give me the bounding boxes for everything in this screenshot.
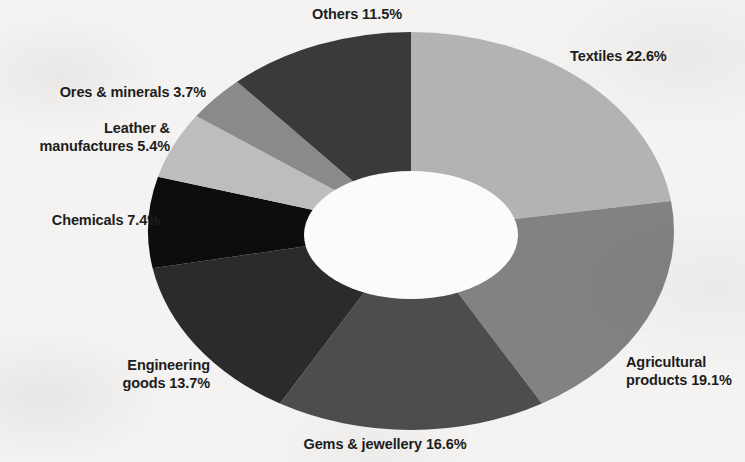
slice-label-leather-manufactures-line2: manufactures 5.4% [10,138,170,156]
slice-label-leather-manufactures: Leather & manufactures 5.4% [10,120,170,155]
slice-label-chemicals-line1: Chemicals 7.4% [10,212,160,230]
slice-label-ores-minerals-line1: Ores & minerals 3.7% [20,84,206,102]
slice-label-textiles: Textiles 22.6% [570,48,740,66]
slice-label-agricultural-products-line1: Agricultural [626,354,745,372]
slice-label-engineering-goods-line2: goods 13.7% [50,375,210,393]
slice-label-agricultural-products: Agricultural products 19.1% [626,354,745,389]
slice-label-engineering-goods: Engineering goods 13.7% [50,357,210,392]
slice-label-gems-jewellery-line1: Gems & jewellery 16.6% [260,436,510,454]
slice-label-others: Others 11.5% [262,6,452,24]
slice-label-leather-manufactures-line1: Leather & [10,120,170,138]
slice-label-gems-jewellery: Gems & jewellery 16.6% [260,436,510,454]
slice-label-engineering-goods-line1: Engineering [50,357,210,375]
donut-chart: Others 11.5% Textiles 22.6% Ores & miner… [0,0,745,462]
slice-label-ores-minerals: Ores & minerals 3.7% [20,84,206,102]
donut-chart-svg [0,0,745,462]
donut-center-hole [304,171,518,299]
slice-label-textiles-line1: Textiles 22.6% [570,48,740,66]
slice-label-chemicals: Chemicals 7.4% [10,212,160,230]
slice-label-agricultural-products-line2: products 19.1% [626,372,745,390]
slice-label-others-line1: Others 11.5% [262,6,452,24]
